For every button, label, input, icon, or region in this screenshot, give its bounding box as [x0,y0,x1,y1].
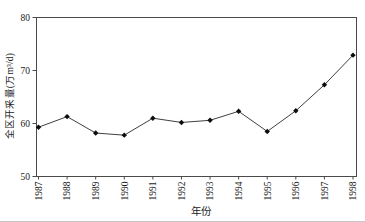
y-tick-label: 50 [21,172,31,182]
x-tick-label: 1995 [263,181,273,200]
data-line [39,55,354,135]
y-tick-label: 80 [21,13,31,23]
data-point-marker [122,132,127,137]
x-tick-label: 1989 [91,181,101,200]
x-tick-label: 1990 [120,181,130,200]
x-tick-label: 1987 [34,181,44,200]
data-point-marker [150,116,155,121]
x-tick-label: 1991 [148,181,158,200]
x-axis-title: 年份 [191,203,211,218]
y-tick-label: 70 [21,66,31,76]
plot-canvas: 5060708019871988198919901991199219931994… [0,0,365,222]
data-point-marker [179,120,184,125]
y-axis-title: 全区开采量(万m³/d) [2,53,16,139]
x-tick-label: 1994 [234,181,244,200]
data-point-marker [207,118,212,123]
x-tick-label: 1988 [62,181,72,200]
x-tick-label: 1998 [348,181,358,200]
x-tick-label: 1993 [205,181,215,200]
plot-border [37,18,357,177]
data-point-marker [93,130,98,135]
x-tick-label: 1997 [320,181,330,200]
data-point-marker [64,114,69,119]
line-chart-figure: 5060708019871988198919901991199219931994… [0,0,365,222]
y-tick-label: 60 [21,119,31,129]
x-tick-label: 1996 [291,181,301,200]
x-tick-label: 1992 [177,181,187,200]
